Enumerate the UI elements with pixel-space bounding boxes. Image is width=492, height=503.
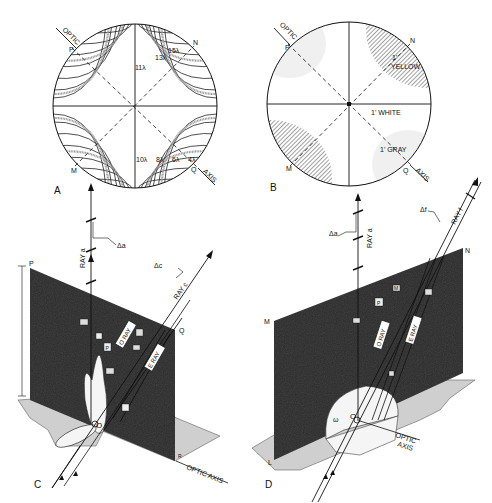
ray-a-arrowhead-icon (88, 183, 94, 191)
ray-f-arrowhead-icon (472, 177, 478, 186)
gray-label: 1' GRAY (380, 146, 407, 153)
eps-tag (425, 289, 432, 295)
point-p: P (285, 44, 290, 51)
delta-f-label: Δf (420, 206, 427, 213)
omega-symbol: ω (333, 416, 339, 423)
yellow-order-label: 1' (392, 54, 397, 61)
eps-c-tag (136, 329, 143, 336)
ray-c-arrowhead-icon (206, 250, 213, 259)
axis-label: AXIS (415, 166, 431, 182)
omega-c-tag (133, 345, 140, 350)
point-q: Q (403, 167, 409, 175)
delta-a-leader (338, 214, 356, 236)
delta-a-leader (93, 222, 116, 245)
omega-tag (353, 318, 360, 323)
order-11-label: 11λ (135, 64, 146, 71)
order-13-label: 13λ (155, 54, 167, 61)
gray-zone-lower (372, 130, 444, 198)
omega-o-tag (389, 371, 394, 376)
point-l: L (268, 459, 272, 466)
delta-a-label: Δa (329, 230, 338, 237)
point-n: N (193, 39, 198, 46)
panel-c: Δa RAY a Δc RAY c O RAY E RAY P (18, 183, 228, 490)
panel-letter-c: C (34, 479, 41, 490)
point-m: M (286, 165, 292, 172)
optic-axis-label: OPTIC AXIS (186, 463, 225, 484)
panel-a: OPTIC AXIS P N M Q 15λ 13λ 11λ 10λ 8λ 6λ… (53, 24, 218, 196)
point-m: M (264, 318, 270, 325)
point-q: Q (191, 166, 197, 174)
panel-letter-b: B (270, 182, 277, 193)
order-15-label: 15λ (168, 47, 180, 54)
point-n: N (410, 37, 415, 44)
point-o: O (350, 412, 356, 421)
order-8-label: 8λ (156, 156, 164, 163)
ray-a-label: RAY a (366, 228, 373, 248)
delta-a-label: Δa (117, 242, 126, 249)
omega-tag-2 (106, 368, 114, 374)
yellow-label: YELLOW (391, 63, 421, 70)
yellow-zone-hatch (366, 0, 490, 88)
svg-text:M: M (394, 285, 398, 291)
panel-b: OPTIC AXIS P N M Q 1' YELLOW 1' WHITE 1'… (208, 0, 490, 236)
eps-tag (96, 333, 102, 339)
point-r: R (178, 453, 182, 459)
panel-letter-d: D (265, 479, 272, 490)
point-m: M (71, 167, 77, 174)
eps-o-tag (122, 404, 129, 411)
panel-d: Δa RAY a Δf RAY f O RAY E RAY M P O (252, 177, 481, 502)
ray-a-arrowhead-icon (355, 193, 361, 201)
order-6-label: 6λ (172, 156, 180, 163)
figure-canvas: OPTIC AXIS P N M Q 15λ 13λ 11λ 10λ 8λ 6λ… (0, 0, 492, 503)
omega-tag (80, 319, 88, 325)
delta-c-label: Δc (154, 262, 163, 269)
point-p: P (69, 46, 74, 53)
point-n: N (465, 247, 470, 254)
order-4-label: 4λ (188, 156, 196, 163)
gray-zone (254, 10, 326, 78)
order-10-label: 10λ (136, 156, 148, 163)
axis-label: AXIS (202, 168, 218, 184)
point-p: P (29, 260, 34, 267)
ray-f-label: RAY f (450, 207, 464, 226)
point-o: O (96, 421, 102, 430)
optic-label: OPTIC (279, 21, 299, 41)
ray-a-label: RAY a (79, 248, 86, 268)
white-label: 1' WHITE (371, 109, 401, 116)
panel-letter-a: A (54, 185, 61, 196)
point-q: Q (179, 327, 185, 335)
